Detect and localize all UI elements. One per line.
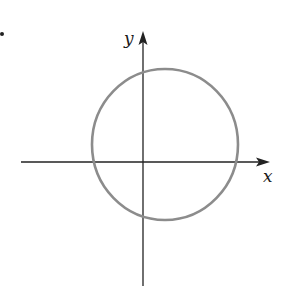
y-axis-label: y bbox=[123, 28, 134, 48]
coordinate-diagram: x y bbox=[0, 0, 288, 297]
circle-curve bbox=[92, 69, 238, 220]
bullet-marker bbox=[0, 32, 4, 36]
x-axis-label: x bbox=[263, 166, 273, 186]
